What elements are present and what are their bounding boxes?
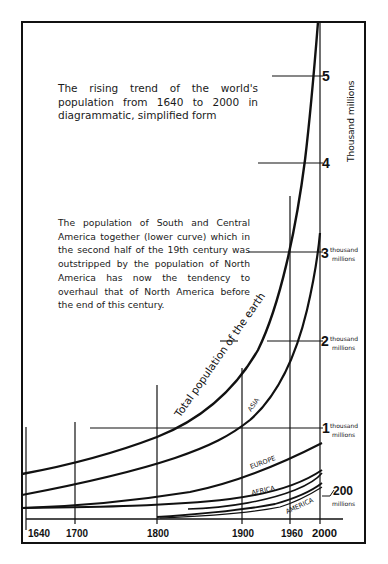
tick-3: 3 [321, 245, 329, 261]
year-label-1960: 1960 [281, 527, 303, 539]
tick-3-thousand: thousand [330, 246, 358, 253]
year-label-1700: 1700 [66, 527, 88, 539]
tick-1-millions: millions [332, 431, 355, 438]
tick-200: 200 [333, 484, 353, 498]
y-axis-title: Thousand millions [346, 80, 356, 163]
year-label-2000: 2000 [312, 527, 337, 539]
tick-2: 2 [321, 333, 329, 349]
curve-africa [22, 470, 322, 508]
tick-2-millions: millions [332, 344, 355, 351]
tick-1-thousand: thousand [330, 422, 358, 429]
tick-3-millions: millions [332, 255, 355, 262]
tick-4: 4 [322, 155, 330, 171]
year-label-1800: 1800 [147, 527, 169, 539]
year-label-1640: 1640 [28, 527, 50, 539]
tick-2-thousand: thousand [330, 335, 358, 342]
label-africa: AFRICA [251, 484, 276, 497]
chart-annotation: The population of South and Central Amer… [58, 216, 250, 312]
year-label-1900: 1900 [232, 527, 254, 539]
tick-1: 1 [322, 420, 330, 436]
tick-200-millions: millions [332, 500, 355, 507]
label-europe: EUROPE [249, 454, 277, 471]
chart-title: The rising trend of the world's populati… [58, 82, 258, 123]
tick-5: 5 [322, 68, 330, 84]
curve-europe [22, 443, 322, 508]
